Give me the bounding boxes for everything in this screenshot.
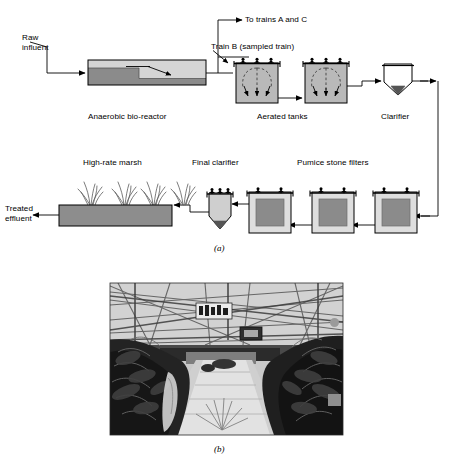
process-flow-diagram	[0, 0, 452, 468]
clarifier	[382, 64, 414, 95]
label-raw-influent: Rawinfluent	[22, 33, 49, 52]
figure-container: Rawinfluent Anaerobic bio-reactor To tra…	[0, 0, 452, 468]
panel-a-caption: (a)	[214, 243, 225, 253]
label-anaerobic-bioreactor: Anaerobic bio-reactor	[88, 112, 166, 122]
label-to-trains: To trains A and C	[245, 15, 307, 25]
anaerobic-bioreactor	[88, 60, 206, 85]
pumice-stone-filter-3	[373, 187, 419, 233]
hanging-banner	[196, 303, 232, 319]
label-train-b: Train B (sampled train)	[211, 42, 294, 52]
treated-effluent-line-2: effluent	[5, 214, 32, 223]
aerated-tank-2	[303, 58, 349, 103]
final-clarifier	[207, 188, 233, 229]
label-pumice-stone-filters: Pumice stone filters	[297, 158, 369, 168]
high-rate-marsh	[59, 182, 196, 226]
raw-influent-line-1: Raw	[22, 33, 38, 42]
label-aerated-tanks: Aerated tanks	[257, 112, 308, 122]
label-clarifier: Clarifier	[381, 112, 409, 122]
raw-influent-line-2: influent	[22, 43, 49, 52]
treated-effluent-line-1: Treated	[5, 204, 33, 213]
panel-a	[30, 20, 438, 233]
pumice-stone-filter-1	[247, 187, 293, 233]
label-final-clarifier: Final clarifier	[192, 158, 239, 168]
hanging-sign	[240, 327, 262, 340]
panel-b-caption: (b)	[214, 444, 225, 454]
marsh-plants	[78, 182, 196, 205]
pumice-stone-filter-2	[310, 187, 356, 233]
aerated-tank-1	[234, 58, 280, 103]
label-high-rate-marsh: High-rate marsh	[83, 158, 142, 168]
label-treated-effluent: Treatedeffluent	[5, 204, 33, 223]
greenhouse-photograph	[110, 283, 343, 435]
